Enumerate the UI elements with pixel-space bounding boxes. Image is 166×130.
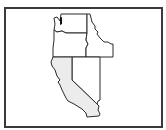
state-oregon[interactable]	[53, 30, 88, 57]
location-marker-icon[interactable]	[60, 17, 62, 25]
western-us-map	[0, 0, 166, 130]
state-washington[interactable]	[54, 14, 87, 33]
state-idaho[interactable]	[86, 14, 113, 57]
